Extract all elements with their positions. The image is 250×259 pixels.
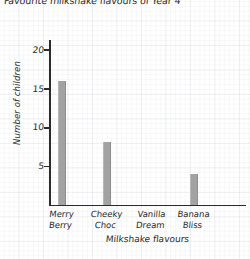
y-tick-label-10-wrap: 10 xyxy=(0,122,44,132)
y-tick-15 xyxy=(44,88,50,89)
y-tick-label-20-wrap: 20 xyxy=(0,45,44,55)
bar-merry-berry xyxy=(58,81,66,205)
y-tick-10 xyxy=(44,127,50,128)
y-tick-20 xyxy=(44,49,50,50)
y-axis-title: Number of children xyxy=(12,48,22,158)
x-axis-title: Milkshake flavours xyxy=(48,234,246,244)
y-tick-label-15-wrap: 15 xyxy=(0,84,44,94)
chart-title: Favourite milkshake flavours of Year 4 xyxy=(3,0,246,6)
x-axis-line xyxy=(49,205,246,207)
y-axis-line xyxy=(49,40,51,206)
y-tick-label-5-wrap: 5 xyxy=(0,161,44,171)
x-tick-label-banana-bliss: Banana Bliss xyxy=(165,209,221,230)
bar-chart: Favourite milkshake flavours of Year 4 2… xyxy=(0,0,250,259)
y-tick-5 xyxy=(44,166,50,167)
y-tick-label-5: 5 xyxy=(17,161,44,171)
x-tick-label-banana-bliss-line2: Bliss xyxy=(165,220,220,231)
bar-cheeky-choc xyxy=(103,142,111,204)
x-tick-label-banana-bliss-line1: Banana xyxy=(166,209,221,220)
bar-banana-bliss xyxy=(190,174,198,205)
